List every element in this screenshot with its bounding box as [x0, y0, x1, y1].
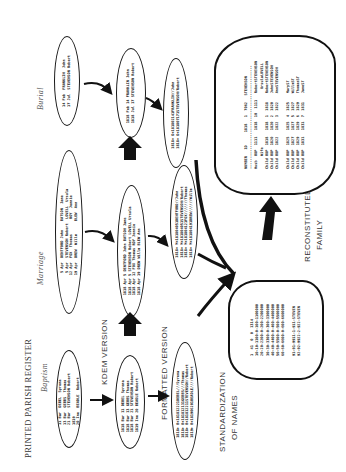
arrow-formatted-to-standardization [198, 276, 232, 316]
bold-arrow-to-family [259, 196, 282, 240]
arrow-burial-to-formatted [146, 98, 160, 108]
arrow-burial-to-kdem [84, 83, 110, 92]
flow-arrows [0, 0, 346, 472]
arrow-marriage-to-kdem [85, 231, 112, 240]
bold-arrow-kdem-up-1 [118, 312, 142, 336]
bold-arrow-kdem-up-2 [118, 136, 142, 160]
arrow-marriage-to-formatted [148, 236, 166, 244]
